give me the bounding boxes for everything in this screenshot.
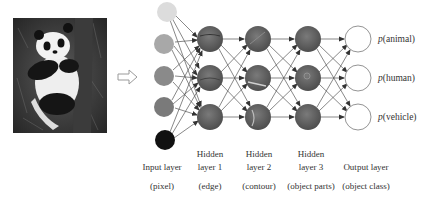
layer-subtitle-hidden2: (contour)	[242, 181, 276, 191]
layer-title-output: Output layer	[343, 162, 388, 172]
input-layer-nodes	[154, 2, 177, 150]
output-label-animal: p(animal)	[378, 34, 415, 44]
layer-subtitle-hidden1: (edge)	[199, 181, 222, 191]
input-node	[155, 130, 175, 150]
input-node	[154, 97, 174, 117]
hidden-layer-3-nodes	[295, 26, 321, 130]
layer-subtitle-output: (object class)	[342, 181, 390, 191]
output-label-vehicle: p(vehicle)	[378, 112, 417, 122]
layer-title-input: Input layer	[142, 162, 181, 172]
layer-title-hidden3-line1: Hidden	[298, 149, 325, 159]
output-label-human: p(human)	[378, 73, 415, 83]
layer-title-hidden2-line1: Hidden	[246, 149, 273, 159]
output-layer-nodes	[345, 26, 371, 130]
layer-title-hidden1-line1: Hidden	[197, 149, 224, 159]
cnn-feature-hierarchy-diagram: p(animal) p(human) p(vehicle) Input laye…	[0, 0, 435, 201]
layer-title-hidden2-line2: layer 2	[247, 162, 272, 172]
input-node	[154, 34, 174, 54]
hidden-layer-2-nodes	[245, 26, 271, 130]
hidden-layer-1-nodes	[197, 26, 223, 130]
input-node	[154, 66, 174, 86]
input-node	[157, 2, 177, 22]
layer-title-hidden3-line2: layer 3	[299, 162, 324, 172]
layer-subtitle-hidden3: (object parts)	[287, 181, 335, 191]
layer-title-hidden1-line2: layer 1	[198, 162, 223, 172]
layer-subtitle-input: (pixel)	[150, 181, 174, 191]
